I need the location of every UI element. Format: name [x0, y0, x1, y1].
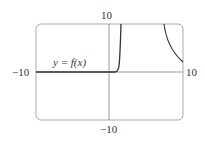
- graph-plot: [0, 0, 205, 143]
- y-max-label: 10: [101, 10, 112, 21]
- x-min-label: −10: [12, 67, 29, 78]
- curve-branch-right: [164, 24, 183, 62]
- x-max-label: 10: [186, 67, 197, 78]
- curve-label: y = f(x): [53, 57, 86, 68]
- y-min-label: −10: [100, 124, 117, 135]
